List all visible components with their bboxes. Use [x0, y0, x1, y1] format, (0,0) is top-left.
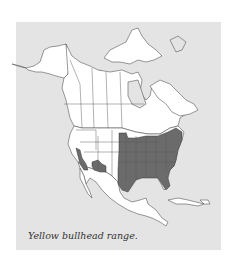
- arctic-islands: [104, 28, 162, 64]
- range-eastern-us: [118, 128, 182, 192]
- range-map: [0, 0, 231, 264]
- figure-caption: Yellow bullhead range.: [28, 230, 138, 241]
- caribbean-islands: [168, 198, 204, 206]
- alaska-landmass: [26, 44, 70, 78]
